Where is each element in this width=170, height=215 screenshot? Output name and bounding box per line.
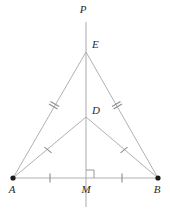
segment-ad <box>13 117 86 178</box>
right-angle-marker-at-m <box>86 170 94 178</box>
geometry-diagram: P E D A M B <box>0 0 170 215</box>
point-dot-a <box>10 175 15 180</box>
point-dot-b <box>155 175 160 180</box>
label-a: A <box>8 183 16 195</box>
tick-bd-single <box>121 147 128 153</box>
segment-ae <box>13 52 86 178</box>
label-e: E <box>91 38 99 50</box>
label-d: D <box>91 104 100 116</box>
label-b: B <box>154 183 161 195</box>
geometry-canvas: P E D A M B <box>0 0 170 215</box>
label-p: P <box>79 3 87 15</box>
segment-bd <box>86 117 158 178</box>
label-m: M <box>80 183 91 195</box>
tick-ad-single <box>45 147 52 153</box>
tick-be-double <box>112 102 122 110</box>
